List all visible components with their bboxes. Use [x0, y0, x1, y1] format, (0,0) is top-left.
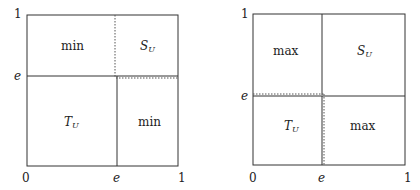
region-bottom-left-label: TU [284, 120, 299, 136]
x-tick-e: e [113, 172, 120, 184]
region-bottom-left-label: TU [64, 116, 79, 132]
region-top-right-label: SU [357, 45, 372, 61]
region-top-left-label: max [273, 45, 298, 57]
region-top-right-label: SU [140, 40, 155, 56]
diagram-lines [0, 0, 420, 190]
region-bottom-right-label: min [138, 116, 161, 128]
y-tick-1: 1 [14, 8, 22, 20]
x-tick-0: 0 [249, 172, 257, 184]
y-tick-e: e [14, 70, 21, 82]
left-diagram-lines [27, 15, 178, 166]
right-diagram-lines [253, 14, 405, 165]
region-top-left-label: min [61, 40, 84, 52]
x-tick-e: e [318, 172, 325, 184]
x-tick-1: 1 [404, 172, 412, 184]
region-bottom-right-label: max [350, 120, 375, 132]
x-tick-0: 0 [22, 172, 30, 184]
y-tick-1: 1 [241, 8, 249, 20]
y-tick-e: e [241, 90, 248, 102]
x-tick-1: 1 [178, 172, 186, 184]
